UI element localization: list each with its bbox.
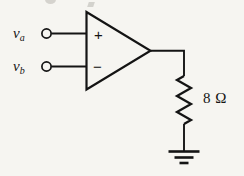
input-label-vb: vb bbox=[13, 59, 25, 74]
resistor-zigzag[interactable] bbox=[177, 76, 191, 124]
terminal-circle-va[interactable] bbox=[42, 29, 51, 38]
resistor-value-label: 8 Ω bbox=[203, 91, 227, 106]
input-label-va: va bbox=[13, 26, 25, 41]
terminal-circle-vb[interactable] bbox=[42, 62, 51, 71]
figure-canvas: va vb + − 8 Ω bbox=[0, 0, 244, 176]
circuit-schematic bbox=[0, 0, 244, 176]
wire-output bbox=[151, 51, 185, 76]
input-label-va-subscript: a bbox=[20, 32, 25, 43]
input-label-va-symbol: v bbox=[13, 25, 20, 41]
opamp-inverting-sign: − bbox=[93, 59, 102, 74]
opamp-noninverting-sign: + bbox=[94, 27, 103, 42]
opamp-triangle[interactable] bbox=[87, 12, 151, 90]
input-label-vb-subscript: b bbox=[20, 65, 25, 76]
input-label-vb-symbol: v bbox=[13, 58, 20, 74]
ground-symbol[interactable] bbox=[169, 152, 200, 164]
